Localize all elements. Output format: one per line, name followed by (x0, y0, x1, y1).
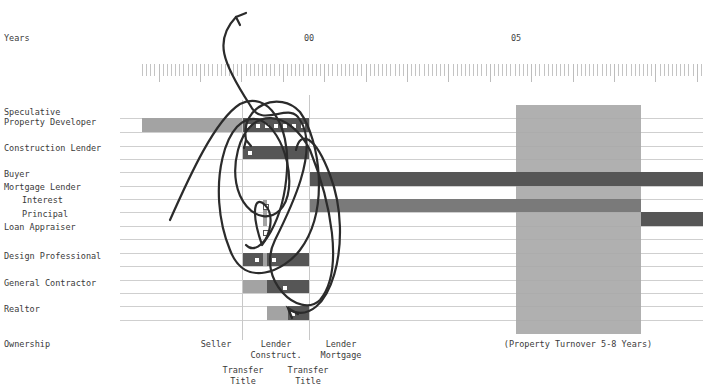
scribble-overlay (0, 0, 703, 390)
